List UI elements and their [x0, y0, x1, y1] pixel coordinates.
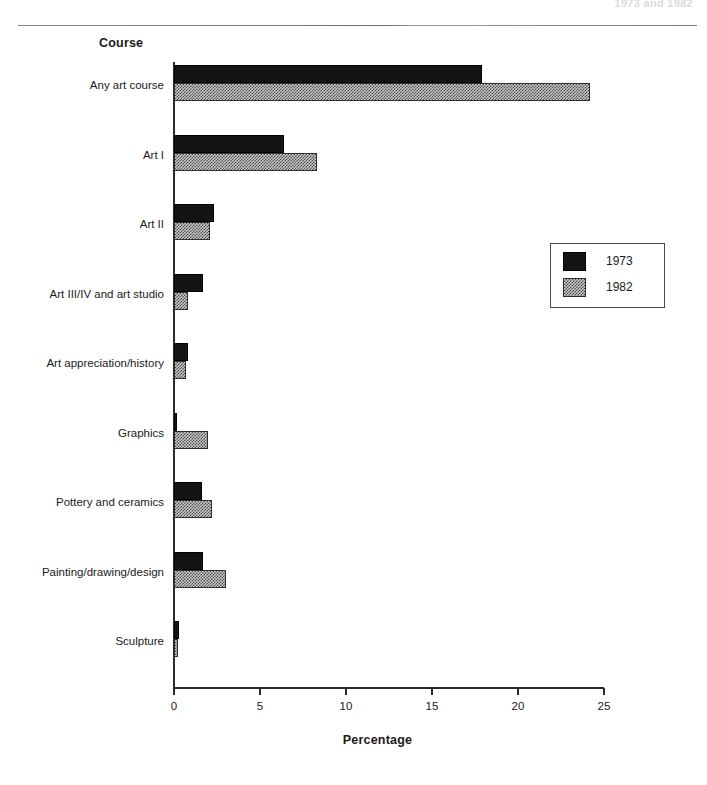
bar-1982 [174, 292, 188, 310]
legend-swatch-1973 [563, 252, 586, 271]
chart-row: Art I [0, 132, 707, 198]
bar-1973 [174, 204, 214, 222]
bar-1982 [174, 431, 208, 449]
y-axis-title: Course [99, 36, 143, 50]
x-tick-0 [173, 688, 175, 695]
bar-1973 [174, 135, 284, 153]
x-tick-25 [603, 688, 605, 695]
x-axis-title: Percentage [0, 733, 707, 747]
bar-1973 [174, 621, 179, 639]
bar-1982 [174, 222, 210, 240]
chart-row: Graphics [0, 410, 707, 476]
bar-1982 [174, 570, 226, 588]
legend-label-1982: 1982 [606, 280, 633, 294]
category-label: Painting/drawing/design [0, 565, 164, 579]
bar-1982 [174, 500, 212, 518]
category-label: Any art course [0, 78, 164, 92]
x-tick-label-10: 10 [340, 700, 353, 712]
bar-1973 [174, 413, 177, 431]
x-tick-label-5: 5 [257, 700, 263, 712]
x-tick-5 [259, 688, 261, 695]
category-label: Art I [0, 148, 164, 162]
x-tick-15 [431, 688, 433, 695]
bar-1973 [174, 482, 202, 500]
bar-1973 [174, 552, 203, 570]
x-tick-label-20: 20 [512, 700, 525, 712]
chart-row: Any art course [0, 62, 707, 128]
bar-1982 [174, 361, 186, 379]
chart-legend: 1973 1982 [550, 243, 665, 308]
bar-1982 [174, 639, 178, 657]
x-tick-20 [517, 688, 519, 695]
bar-1973 [174, 274, 203, 292]
x-axis-line [173, 687, 604, 689]
chart-row: Sculpture [0, 618, 707, 684]
x-tick-label-15: 15 [426, 700, 439, 712]
bar-1982 [174, 153, 317, 171]
category-label: Art appreciation/history [0, 356, 164, 370]
bar-1973 [174, 343, 188, 361]
x-tick-10 [345, 688, 347, 695]
bar-1973 [174, 65, 482, 83]
legend-label-1973: 1973 [606, 254, 633, 268]
chart-row: Pottery and ceramics [0, 479, 707, 545]
x-tick-label-0: 0 [171, 700, 177, 712]
category-label: Sculpture [0, 634, 164, 648]
bar-1982 [174, 83, 590, 101]
legend-swatch-1982 [563, 278, 586, 297]
bar-chart: Course 0510152025 Any art courseArt IArt… [0, 0, 707, 785]
category-label: Art III/IV and art studio [0, 287, 164, 301]
category-label: Graphics [0, 426, 164, 440]
chart-row: Art appreciation/history [0, 340, 707, 406]
chart-row: Painting/drawing/design [0, 549, 707, 615]
category-label: Pottery and ceramics [0, 495, 164, 509]
x-tick-label-25: 25 [598, 700, 611, 712]
category-label: Art II [0, 217, 164, 231]
